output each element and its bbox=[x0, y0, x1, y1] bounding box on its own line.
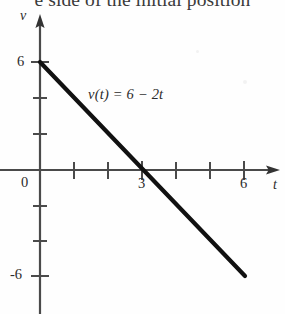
graph-canvas bbox=[0, 0, 285, 314]
figure-page: e side of the initial position bbox=[0, 0, 285, 314]
v-axis-label: v bbox=[20, 8, 26, 24]
scan-speckle bbox=[196, 50, 199, 53]
v-tick-label-neg6: -6 bbox=[10, 266, 22, 283]
equation-annotation: v(t) = 6 − 2t bbox=[88, 86, 163, 103]
t-axis-label: t bbox=[273, 177, 277, 193]
v-axis bbox=[35, 14, 44, 314]
velocity-time-graph bbox=[0, 0, 285, 314]
scan-speckle bbox=[243, 80, 247, 84]
t-tick-label-3: 3 bbox=[138, 175, 145, 192]
t-tick-label-6: 6 bbox=[240, 175, 247, 192]
v-tick-label-6: 6 bbox=[17, 53, 24, 70]
origin-label: 0 bbox=[21, 174, 28, 191]
